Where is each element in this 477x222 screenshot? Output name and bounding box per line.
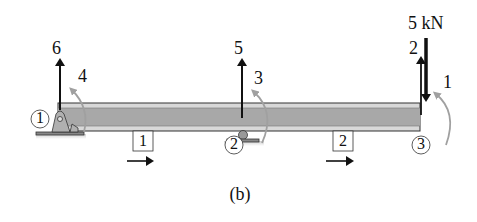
rotation-arrow-icon [436,94,450,145]
element-label-2: 2 [333,131,353,151]
dof-label-1: 1 [443,72,452,93]
dof-label-6: 6 [52,38,61,59]
dof-label-3: 3 [254,68,263,89]
node-label-1: 1 [34,109,46,127]
beam [58,103,420,131]
dof-label-5: 5 [234,38,243,59]
element-label-1: 1 [133,131,153,151]
dof-label-4: 4 [78,66,87,87]
dof-label-2: 2 [409,38,418,59]
figure-caption: (b) [220,184,260,205]
load-label: 5 kN [408,13,444,34]
node-label-3: 3 [415,135,427,153]
node-label-2: 2 [228,135,240,153]
